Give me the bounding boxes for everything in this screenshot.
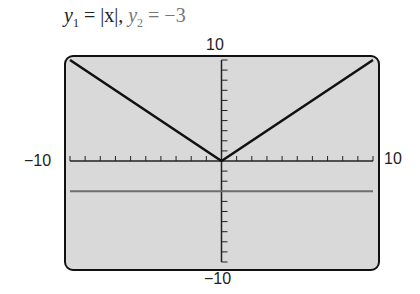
plot-area [0,0,420,294]
